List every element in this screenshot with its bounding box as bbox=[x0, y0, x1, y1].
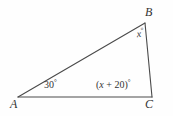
degree-sign-c: ° bbox=[128, 78, 131, 86]
angle-label-a: 30° bbox=[44, 79, 57, 90]
triangle-figure: A B C 30° x° (x + 20)° bbox=[0, 0, 173, 116]
angle-a-value: 30 bbox=[44, 79, 54, 90]
vertex-label-b: B bbox=[145, 6, 152, 18]
degree-sign-a: ° bbox=[54, 78, 57, 86]
vertex-label-a: A bbox=[10, 98, 17, 110]
angle-label-b: x° bbox=[136, 27, 144, 39]
angle-c-operand: + 20) bbox=[104, 79, 128, 90]
side-bc-line bbox=[145, 23, 152, 97]
angle-label-c: (x + 20)° bbox=[96, 79, 131, 90]
vertex-label-c: C bbox=[145, 98, 153, 110]
